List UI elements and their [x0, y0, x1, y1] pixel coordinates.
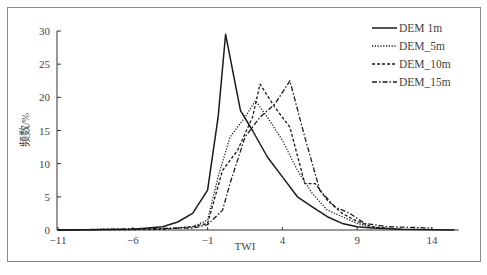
- line-chart: 051015202530−11−6−14914 DEM 1mDEM_5mDEM_…: [0, 0, 487, 275]
- y-tick-label: 5: [45, 191, 51, 203]
- axes: 051015202530−11−6−14914: [39, 25, 459, 246]
- y-tick-label: 25: [39, 58, 51, 70]
- legend-label: DEM_5m: [399, 40, 445, 52]
- legend-label: DEM 1m: [399, 22, 442, 34]
- y-tick-label: 10: [39, 158, 51, 170]
- x-tick-label: −11: [50, 234, 67, 246]
- y-tick-label: 15: [39, 125, 51, 137]
- y-tick-label: 30: [39, 25, 51, 37]
- legend-label: DEM_10m: [399, 58, 451, 70]
- x-axis-title: TWI: [235, 240, 256, 252]
- series-line-dem-5m: [58, 101, 402, 230]
- legend-label: DEM_15m: [399, 76, 451, 88]
- legend: DEM 1mDEM_5mDEM_10mDEM_15m: [372, 22, 451, 88]
- x-tick-label: 4: [280, 234, 286, 246]
- series-line-dem-15m: [58, 81, 432, 230]
- x-tick-label: −6: [127, 234, 139, 246]
- y-axis-title: 频数/%: [18, 113, 31, 147]
- x-tick-label: 9: [354, 234, 360, 246]
- x-tick-label: −1: [202, 234, 214, 246]
- y-tick-label: 20: [39, 91, 51, 103]
- x-tick-label: 14: [427, 234, 439, 246]
